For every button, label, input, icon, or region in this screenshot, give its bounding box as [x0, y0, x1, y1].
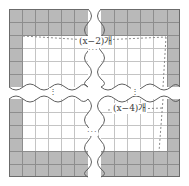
quadrant-top-left	[9, 9, 88, 87]
quadrant-bottom-left	[9, 99, 88, 177]
quadrant-border	[9, 99, 88, 177]
ellipsis-vertical-right: ⋮	[131, 88, 140, 96]
ellipsis-horizontal-bottom: ···	[87, 128, 98, 136]
ellipsis-vertical-right-text: ⋮	[131, 87, 140, 96]
ellipsis-vertical-left-text: ⋮	[49, 87, 58, 96]
ellipsis-top-text: ···	[88, 45, 99, 54]
ellipsis-horizontal-top: ···	[88, 46, 99, 54]
quadrant-border	[9, 9, 88, 87]
quadrant-top-right	[101, 9, 180, 87]
label-bottom-count: (x−4)개	[112, 103, 147, 114]
quadrant-border	[101, 9, 180, 87]
tile-frame-figure: (x−2)개 (x−4)개 ··· ··· ⋮ ⋮	[0, 0, 189, 186]
ellipsis-bottom-text: ···	[87, 127, 98, 136]
label-bottom-text: (x−4)개	[113, 103, 146, 113]
ellipsis-vertical-left: ⋮	[49, 88, 58, 96]
